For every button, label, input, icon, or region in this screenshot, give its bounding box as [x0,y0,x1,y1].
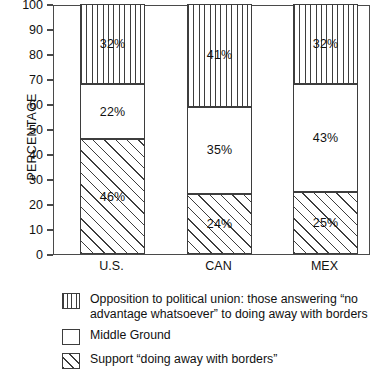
bar-segment-label: 43% [313,131,338,145]
y-axis-tick-label: 10 [29,222,43,238]
x-axis-category-label: CAN [174,259,264,273]
stacked-bar: 25%43%32% [293,4,358,254]
y-axis-tick-label: 40 [29,147,43,163]
x-axis-category-label: U.S. [67,259,157,273]
chart-legend: Opposition to political union: those ans… [62,292,387,376]
legend-item[interactable]: Support “doing away with borders” [62,352,387,369]
bar-segment: 46% [80,139,145,254]
bar-segment: 32% [80,4,145,84]
y-axis-tick-label: 70 [29,72,43,88]
bar-segment-label: 32% [100,37,125,51]
stacked-bar: 24%35%41% [187,4,252,254]
legend-item[interactable]: Opposition to political union: those ans… [62,292,387,321]
bar-segment-label: 35% [207,143,232,157]
bar-segment-label: 24% [207,217,232,231]
bar-segment: 41% [187,4,252,107]
x-axis-category-label: MEX [280,259,370,273]
legend-item-label: Support “doing away with borders” [90,352,277,367]
y-axis-tick-label: 30 [29,172,43,188]
bar-segment-label: 25% [313,216,338,230]
y-axis-tick-label: 90 [29,22,43,38]
bar-segment-label: 22% [100,105,125,119]
bar-segment: 32% [293,4,358,84]
bar-segment: 35% [187,107,252,195]
bar-segment: 43% [293,84,358,192]
bar-segment-label: 32% [313,37,338,51]
legend-swatch-empty-icon [62,329,80,345]
stacked-bar-chart-figure: PERCENTAGE 1009080706050403020100 46%22%… [0,0,392,377]
bar-segment: 22% [80,84,145,139]
legend-item-label: Middle Ground [90,328,171,343]
y-axis-tick-label: 50 [29,122,43,138]
legend-swatch-diagonal-hatch-icon [62,353,80,369]
bar-segment-label: 41% [207,48,232,62]
plot-area: 46%22%32%24%35%41%25%43%32% [53,5,370,255]
legend-swatch-vertical-hatch-icon [62,293,80,309]
y-axis-tick-label: 0 [36,247,43,263]
bar-segment-label: 46% [100,190,125,204]
legend-item[interactable]: Middle Ground [62,328,387,345]
legend-item-label: Opposition to political union: those ans… [90,292,382,321]
bar-segment: 25% [293,192,358,255]
bar-segment: 24% [187,194,252,254]
y-axis-tick-label: 20 [29,197,43,213]
stacked-bar: 46%22%32% [80,4,145,254]
y-axis-tick-label: 100 [22,0,43,13]
y-axis-tick-label: 60 [29,97,43,113]
y-axis-tick-label: 80 [29,47,43,63]
